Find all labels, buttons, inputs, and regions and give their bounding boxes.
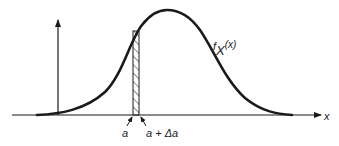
pdf-diagram: a a + Δa fX(x) x bbox=[0, 0, 339, 146]
curve-label: fX(x) bbox=[213, 39, 236, 58]
density-curve bbox=[37, 10, 292, 115]
probability-strip bbox=[133, 31, 139, 115]
a-pointer-arrow bbox=[127, 117, 132, 126]
label-a: a bbox=[122, 127, 128, 139]
curve-label-arg: (x) bbox=[225, 39, 237, 50]
a-plus-delta-pointer-arrow bbox=[141, 117, 146, 126]
x-axis-label: x bbox=[323, 110, 330, 122]
label-a-plus-delta-a: a + Δa bbox=[146, 127, 178, 139]
